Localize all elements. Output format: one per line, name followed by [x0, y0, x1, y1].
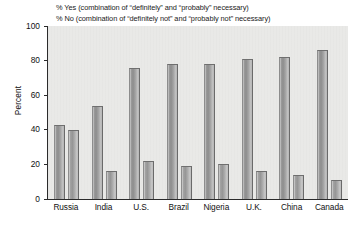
- plot-area: 020406080100: [47, 26, 348, 200]
- bar-yes: [279, 57, 290, 199]
- bar-group: [236, 26, 274, 199]
- bar-no: [218, 164, 229, 199]
- x-axis-label: Brazil: [160, 202, 198, 212]
- bar-no: [143, 161, 154, 199]
- bar-no: [68, 130, 79, 199]
- y-axis-tick-label: 60: [12, 90, 40, 100]
- bar-chart: % Yes (combination of “definitely” and “…: [0, 0, 353, 234]
- y-axis-tick-label: 40: [12, 124, 40, 134]
- x-axis-label: U.S.: [122, 202, 160, 212]
- bar-yes: [54, 125, 65, 199]
- y-axis-tick-label: 100: [12, 21, 40, 31]
- bar-yes: [204, 64, 215, 199]
- bar-groups: [48, 26, 348, 199]
- bar-no: [293, 175, 304, 199]
- bar-group: [123, 26, 161, 199]
- y-axis-tick-mark: [44, 164, 48, 165]
- bar-group: [273, 26, 311, 199]
- bar-group: [86, 26, 124, 199]
- y-axis-tick-mark: [44, 60, 48, 61]
- y-axis-tick-mark: [44, 129, 48, 130]
- bar-group: [161, 26, 199, 199]
- bar-group: [311, 26, 349, 199]
- legend-entry-no: % No (combination of “definitely not” an…: [56, 13, 351, 24]
- y-axis-tick-mark: [44, 26, 48, 27]
- x-axis-label: China: [273, 202, 311, 212]
- bar-yes: [242, 59, 253, 199]
- bar-no: [256, 171, 267, 199]
- x-axis-labels: RussiaIndiaU.S.BrazilNigeriaU.K.ChinaCan…: [47, 202, 348, 212]
- y-axis-tick-mark: [44, 199, 48, 200]
- y-axis-tick-label: 80: [12, 55, 40, 65]
- y-axis-tick-mark: [44, 95, 48, 96]
- x-axis-label: India: [85, 202, 123, 212]
- bar-yes: [92, 106, 103, 199]
- bar-no: [331, 180, 342, 199]
- x-axis-label: Canada: [310, 202, 348, 212]
- bar-yes: [167, 64, 178, 199]
- bar-no: [106, 171, 117, 199]
- bar-group: [198, 26, 236, 199]
- bar-yes: [129, 68, 140, 199]
- chart-legend: % Yes (combination of “definitely” and “…: [56, 2, 351, 24]
- y-axis-tick-label: 0: [12, 194, 40, 204]
- bar-group: [48, 26, 86, 199]
- bar-yes: [317, 50, 328, 199]
- bar-no: [181, 166, 192, 199]
- x-axis-label: Nigeria: [198, 202, 236, 212]
- x-axis-label: Russia: [47, 202, 85, 212]
- y-axis-tick-label: 20: [12, 159, 40, 169]
- x-axis-label: U.K.: [235, 202, 273, 212]
- plot-inner: [48, 26, 348, 199]
- legend-entry-yes: % Yes (combination of “definitely” and “…: [56, 2, 351, 13]
